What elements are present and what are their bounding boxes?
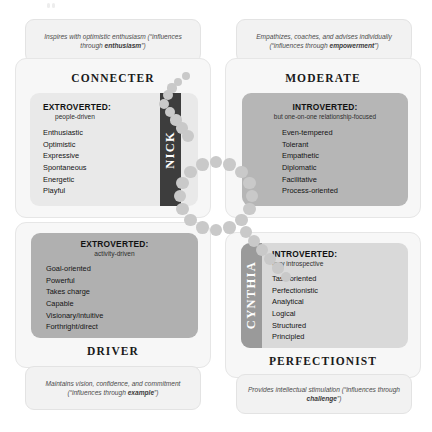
quadrant-card-perfectionist[interactable]: CYNTHIA INTROVERTED: very introspective … (225, 232, 421, 378)
quadrant-card-driver[interactable]: EXTROVERTED: activity-driven Goal-orient… (15, 222, 211, 368)
perfectionist-trait-panel: CYNTHIA INTROVERTED: very introspective … (241, 243, 408, 348)
perfectionist-caption: Provides intellectual stimulation (“infl… (236, 374, 412, 414)
trait-item: Tolerant (282, 139, 338, 151)
connecter-orientation-detail: people-driven (55, 113, 95, 120)
connecter-caption: Inspires with optimistic enthusiasm (“in… (25, 19, 201, 63)
top-artifact-2 (52, 3, 55, 8)
perfectionist-title: PERFECTIONIST (226, 355, 420, 367)
trait-item: Energetic (43, 174, 87, 186)
quadrant-card-moderate[interactable]: MODERATE INTROVERTED: but one-on-one rel… (225, 58, 421, 218)
marker-cynthia[interactable]: CYNTHIA (241, 243, 262, 348)
trait-item: Takes charge (46, 286, 103, 298)
trait-item: Capable (46, 298, 103, 310)
moderate-caption: Empathizes, coaches, and advises individ… (236, 19, 412, 63)
trait-item: Structured (272, 320, 318, 332)
trait-item: Empathetic (282, 150, 338, 162)
quadrant-card-connecter[interactable]: CONNECTER EXTROVERTED: people-driven Ent… (15, 58, 211, 218)
trait-item: Goal-oriented (46, 263, 103, 275)
driver-orientation-detail: activity-driven (31, 250, 198, 257)
moderate-caption-bold: empowerment (330, 42, 375, 49)
marker-nick-label: NICK (163, 131, 178, 169)
driver-caption-bold: example (128, 389, 154, 396)
trait-item: Diplomatic (282, 162, 338, 174)
trail-dot (210, 224, 223, 237)
perfectionist-caption-tail: ”) (337, 395, 341, 402)
top-artifact (47, 3, 50, 8)
perfectionist-caption-bold: challenge (307, 395, 337, 402)
driver-trait-panel: EXTROVERTED: activity-driven Goal-orient… (31, 233, 198, 338)
trait-item: Expressive (43, 150, 87, 162)
moderate-orientation: INTROVERTED: (242, 102, 408, 112)
trait-item: Optimistic (43, 139, 87, 151)
moderate-trait-panel: INTROVERTED: but one-on-one relationship… (242, 93, 408, 206)
moderate-traits: Even-temperedTolerantEmpatheticDiplomati… (282, 127, 338, 197)
trail-dot (210, 156, 223, 169)
perfectionist-traits: Task-orientedPerfectionisticAnalyticalLo… (272, 273, 318, 343)
trait-item: Enthusiastic (43, 127, 87, 139)
trait-item: Powerful (46, 275, 103, 287)
trait-item: Facilitative (282, 174, 338, 186)
trait-item: Forthright/direct (46, 321, 103, 333)
trait-item: Even-tempered (282, 127, 338, 139)
driver-caption: Maintains vision, confidence, and commit… (25, 366, 201, 410)
trait-item: Spontaneous (43, 162, 87, 174)
perfectionist-caption-lead: Provides intellectual stimulation (“infl… (248, 386, 400, 393)
connecter-title: CONNECTER (16, 72, 210, 84)
marker-cynthia-label: CYNTHIA (244, 261, 259, 329)
trait-item: Task-oriented (272, 273, 318, 285)
moderate-orientation-detail: but one-on-one relationship-focused (242, 113, 408, 120)
driver-traits: Goal-orientedPowerfulTakes chargeCapable… (46, 263, 103, 333)
trait-item: Visionary/intuitive (46, 310, 103, 322)
trait-item: Perfectionistic (272, 285, 318, 297)
moderate-caption-tail: ”) (374, 42, 378, 49)
trait-item: Analytical (272, 296, 318, 308)
connecter-caption-tail: ”) (141, 42, 145, 49)
marker-nick[interactable]: NICK (160, 93, 181, 206)
perfectionist-orientation: INTROVERTED: (272, 249, 337, 259)
trait-item: Process-oriented (282, 185, 338, 197)
perfectionist-orientation-detail: very introspective (272, 260, 323, 267)
driver-orientation: EXTROVERTED: (31, 239, 198, 249)
trait-item: Playful (43, 185, 87, 197)
quadrant-diagram: Inspires with optimistic enthusiasm (“in… (0, 0, 432, 432)
trait-item: Logical (272, 308, 318, 320)
connecter-traits: EnthusiasticOptimisticExpressiveSpontane… (43, 127, 87, 197)
trait-item: Principled (272, 331, 318, 343)
connecter-caption-bold: enthusiasm (105, 42, 142, 49)
connecter-orientation: EXTROVERTED: (43, 102, 111, 112)
driver-title: DRIVER (16, 345, 210, 357)
driver-caption-lead: Maintains vision, confidence, and commit… (46, 380, 181, 396)
moderate-title: MODERATE (226, 72, 420, 84)
driver-caption-tail: ”) (154, 389, 158, 396)
